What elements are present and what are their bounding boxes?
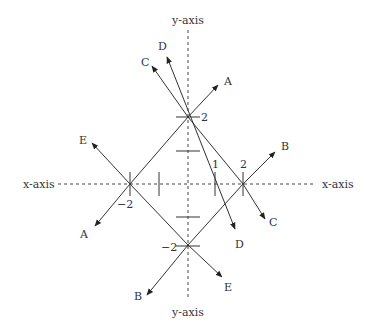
vector-label-a-lower: A bbox=[79, 228, 89, 241]
vector-label-b-lower: B bbox=[134, 290, 142, 303]
vector-label-c-lower: C bbox=[269, 216, 277, 229]
x-axis-label-left: x-axis bbox=[23, 178, 55, 191]
vector-c-up-arrow bbox=[152, 66, 188, 117]
vector-label-b-upper: B bbox=[281, 140, 289, 153]
tick-label-x-neg2: −2 bbox=[117, 198, 133, 211]
x-axis-label-right: x-axis bbox=[322, 178, 354, 191]
vector-label-a-upper: A bbox=[223, 75, 233, 88]
tick-label-y-neg2: −2 bbox=[161, 241, 177, 254]
vector-label-d-lower: D bbox=[235, 238, 244, 251]
vector-e-down-arrow bbox=[188, 245, 222, 277]
vector-label-c-upper: C bbox=[141, 56, 149, 69]
y-axis-label-top: y-axis bbox=[171, 14, 204, 27]
vector-label-e-upper: E bbox=[79, 134, 87, 147]
tick-label-y-2: 2 bbox=[201, 111, 208, 124]
tick-label-x-2: 2 bbox=[240, 158, 247, 171]
vector-label-d-upper: D bbox=[158, 40, 167, 53]
coordinate-diagram: y-axis y-axis x-axis x-axis 2 −2 1 2 −2 … bbox=[0, 0, 368, 331]
tick-label-x-1: 1 bbox=[212, 158, 219, 171]
y-axis-label-bottom: y-axis bbox=[171, 306, 204, 319]
vector-e-up-arrow bbox=[92, 143, 130, 184]
vector-c-down-arrow bbox=[243, 184, 265, 219]
vector-b-up-arrow bbox=[243, 152, 275, 184]
vector-label-e-lower: E bbox=[224, 281, 232, 294]
